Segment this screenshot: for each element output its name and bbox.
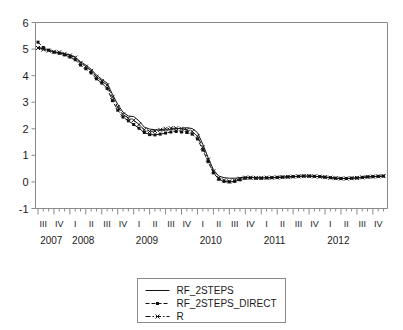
x-quarter-label: II xyxy=(344,219,349,229)
legend-label: R xyxy=(177,311,184,322)
x-quarter-label: IV xyxy=(183,219,192,229)
y-tick-label: 0 xyxy=(22,176,28,188)
x-year-label: 2012 xyxy=(327,235,350,246)
x-quarter-label: III xyxy=(231,219,239,229)
y-tick-label: 3 xyxy=(22,96,28,108)
x-quarter-label: II xyxy=(152,219,157,229)
y-tick-label: 6 xyxy=(22,17,28,29)
chart-container: -10123456 IIIIVIIIIIIIVIIIIIIIVIIIIIIIVI… xyxy=(0,0,403,330)
timeseries-line-chart: -10123456 IIIIVIIIIIIIVIIIIIIIVIIIIIIIVI… xyxy=(0,0,403,330)
series-marker-square xyxy=(159,133,162,136)
x-quarter-label: III xyxy=(167,219,175,229)
series-marker-square xyxy=(37,41,40,44)
x-year-label: 2009 xyxy=(136,235,159,246)
x-quarter-label: I xyxy=(329,219,332,229)
x-year-label: 2011 xyxy=(264,235,286,246)
series-marker-square xyxy=(148,133,151,136)
x-year-label: 2010 xyxy=(200,235,223,246)
x-quarter-label: IV xyxy=(55,219,64,229)
x-quarter-label: III xyxy=(295,219,303,229)
x-quarter-label: IV xyxy=(119,219,128,229)
x-quarter-label: I xyxy=(265,219,268,229)
x-quarter-label: III xyxy=(103,219,111,229)
x-quarter-label: I xyxy=(202,219,205,229)
series-marker-square xyxy=(175,130,178,133)
y-tick-label: 1 xyxy=(22,149,28,161)
y-tick-label: 5 xyxy=(22,43,28,55)
x-quarter-label: I xyxy=(138,219,141,229)
y-tick-label: -1 xyxy=(19,203,29,215)
x-quarter-label: IV xyxy=(374,219,383,229)
x-quarter-label: II xyxy=(216,219,221,229)
series-marker-square xyxy=(180,130,183,133)
chart-legend: RF_2STEPSRF_2STEPS_DIRECTR xyxy=(138,279,286,323)
x-quarter-label: II xyxy=(280,219,285,229)
x-quarter-label: III xyxy=(358,219,366,229)
series-marker-square xyxy=(153,133,156,136)
series-marker-square xyxy=(169,130,172,133)
x-quarter-label: I xyxy=(74,219,77,229)
y-tick-label: 2 xyxy=(22,123,28,135)
x-year-label: 2008 xyxy=(72,235,95,246)
x-quarter-label: IV xyxy=(246,219,255,229)
x-quarter-label: IV xyxy=(310,219,319,229)
y-tick-label: 4 xyxy=(22,70,28,82)
legend-label: RF_2STEPS_DIRECT xyxy=(177,298,277,309)
x-quarter-label: II xyxy=(89,219,94,229)
series-marker-square xyxy=(156,302,159,305)
x-year-label: 2007 xyxy=(40,235,63,246)
series-marker-square xyxy=(132,123,135,126)
series-marker-square xyxy=(137,127,140,130)
x-quarter-label: III xyxy=(40,219,48,229)
series-marker-square xyxy=(164,132,167,135)
legend-label: RF_2STEPS xyxy=(177,285,235,296)
